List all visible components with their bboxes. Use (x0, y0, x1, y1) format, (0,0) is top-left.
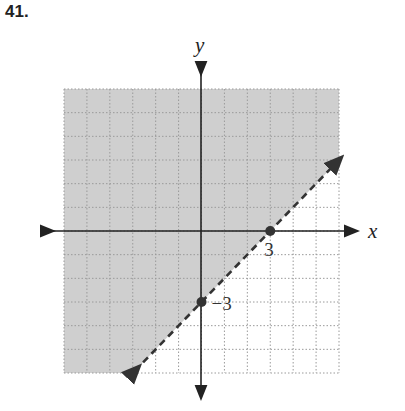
x-intercept-label: 3 (264, 239, 274, 260)
y-intercept-label: −3 (212, 293, 232, 314)
y-axis-label: y (193, 33, 205, 57)
x-intercept-point (265, 226, 275, 236)
x-axis-label: x (367, 219, 378, 243)
y-intercept-point (197, 297, 207, 307)
inequality-graph: x y 3 −3 (0, 0, 405, 411)
